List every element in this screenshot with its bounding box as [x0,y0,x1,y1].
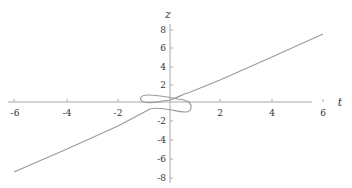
y-axis-label: z [164,8,171,21]
y-tick-label: -4 [157,135,166,145]
y-tick-labels: 8 6 4 2 -2 -4 -6 -8 [157,25,166,183]
x-tick-label: -4 [63,108,72,118]
y-tick-label: -8 [157,173,166,183]
y-tick-label: 8 [160,25,166,35]
chart-canvas: -6 -4 -2 2 4 6 8 6 4 2 -2 -4 -6 -8 z t [0,0,352,188]
y-tick-label: -6 [157,154,166,164]
y-tick-label: 4 [160,62,166,72]
x-tick-label: -6 [11,108,20,118]
x-tick-label: -2 [114,108,123,118]
x-axis-label: t [338,96,343,109]
x-tick-label: 6 [320,108,326,118]
y-tick-label: 2 [160,80,166,90]
y-tick-label: 6 [160,43,166,53]
y-tick-label: -2 [157,116,166,126]
data-curve [14,34,323,172]
x-tick-label: 2 [217,108,223,118]
x-tick-label: 4 [269,108,275,118]
